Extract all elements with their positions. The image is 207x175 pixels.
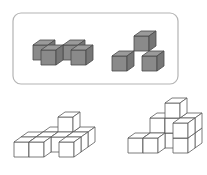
cube	[29, 137, 51, 157]
cube	[134, 31, 156, 51]
cube	[165, 98, 187, 118]
pieces-group	[33, 31, 164, 71]
cube	[41, 45, 63, 65]
puzzle-figure	[0, 0, 207, 175]
cube	[112, 51, 134, 71]
structures-group	[14, 98, 202, 157]
cube	[173, 118, 195, 138]
structure-left	[14, 112, 95, 157]
piece-b	[112, 31, 164, 71]
cube	[58, 112, 80, 132]
piece-a	[33, 40, 93, 65]
cube	[142, 51, 164, 71]
cube	[71, 45, 93, 65]
structure-right	[128, 98, 202, 153]
cube	[143, 133, 165, 153]
cube	[59, 137, 81, 157]
